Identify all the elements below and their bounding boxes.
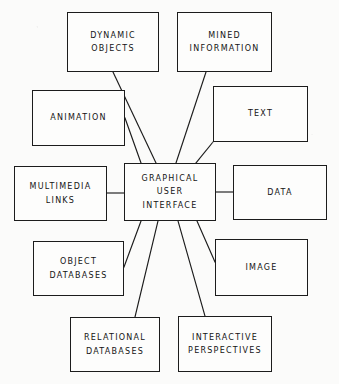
node-label-line: MINED	[208, 29, 241, 42]
node-relational-databases: RELATIONALDATABASES	[70, 317, 160, 372]
node-label-line: INTERACTIVE	[192, 331, 258, 344]
node-label-line: USER	[157, 185, 184, 198]
node-data: DATA	[233, 165, 327, 220]
node-animation: ANIMATION	[32, 90, 125, 146]
connector-animation-to-graphical-user-interface	[125, 118, 141, 163]
node-label-line: IMAGE	[245, 261, 277, 274]
connector-image-to-graphical-user-interface	[197, 221, 215, 262]
node-multimedia-links: MULTIMEDIALINKS	[14, 166, 107, 221]
node-label-line: DATA	[267, 186, 293, 199]
connector-object-databases-to-graphical-user-interface	[124, 221, 141, 267]
node-label-line: RELATIONAL	[84, 331, 146, 344]
node-label-line: INFORMATION	[190, 42, 260, 55]
node-label-line: TEXT	[248, 107, 273, 120]
node-image: IMAGE	[215, 239, 308, 296]
node-label-line: OBJECT	[60, 255, 97, 268]
node-label-line: DYNAMIC	[90, 29, 136, 42]
node-text: TEXT	[213, 86, 308, 142]
node-label-line: DATABASES	[49, 269, 107, 282]
node-graphical-user-interface: GRAPHICALUSERINTERFACE	[124, 163, 216, 221]
connector-relational-databases-to-graphical-user-interface	[135, 221, 158, 317]
node-label-line: DATABASES	[86, 345, 144, 358]
node-interactive-perspectives: INTERACTIVEPERSPECTIVES	[178, 316, 272, 372]
node-label-line: GRAPHICAL	[142, 172, 199, 185]
node-mined-information: MINEDINFORMATION	[177, 12, 272, 72]
node-label-line: ANIMATION	[50, 111, 106, 124]
node-label-line: PERSPECTIVES	[188, 344, 262, 357]
node-label-line: OBJECTS	[91, 42, 135, 55]
node-label-line: INTERFACE	[143, 199, 198, 212]
connector-mined-information-to-graphical-user-interface	[176, 72, 206, 163]
diagram-canvas: GRAPHICALUSERINTERFACEDYNAMICOBJECTSMINE…	[0, 0, 339, 384]
node-object-databases: OBJECTDATABASES	[33, 241, 124, 296]
connector-interactive-perspectives-to-graphical-user-interface	[178, 221, 205, 316]
node-dynamic-objects: DYNAMICOBJECTS	[67, 12, 159, 72]
node-label-line: MULTIMEDIA	[30, 180, 92, 193]
connector-text-to-graphical-user-interface	[196, 142, 213, 163]
node-label-line: LINKS	[46, 194, 75, 207]
